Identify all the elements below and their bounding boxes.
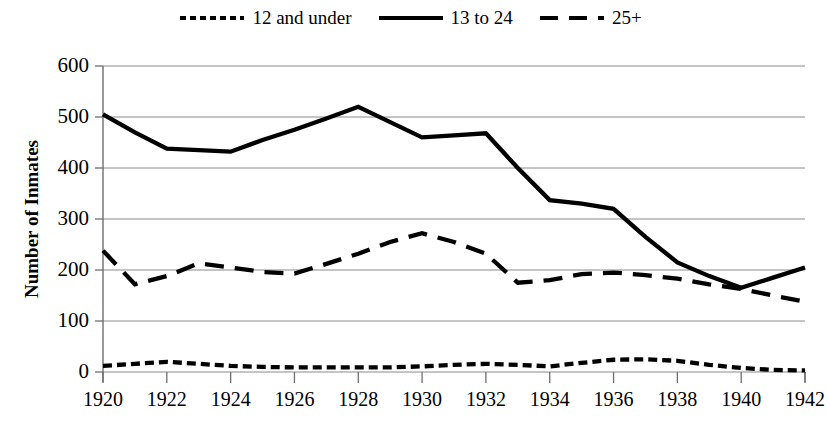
x-tick-label: 1930 [393,389,451,409]
series-line-13-to-24 [103,107,805,288]
x-tick-marks [103,372,805,383]
x-tick-label: 1934 [521,389,579,409]
x-tick-label: 1932 [457,389,515,409]
y-tick-label: 0 [33,361,89,382]
x-tick-label: 1936 [585,389,643,409]
x-tick-label: 1922 [138,389,196,409]
x-tick-label: 1926 [265,389,323,409]
axis-lines [95,66,805,382]
x-tick-label: 1942 [776,389,829,409]
gridlines [103,66,805,372]
series-line-12-and-under [103,359,805,370]
y-tick-label: 600 [33,55,89,76]
data-series-layer [103,107,805,371]
x-tick-label: 1938 [648,389,706,409]
x-tick-label: 1920 [74,389,132,409]
x-tick-label: 1924 [202,389,260,409]
x-tick-label: 1928 [329,389,387,409]
x-tick-label: 1940 [712,389,770,409]
y-axis-title: Number of Inmates [21,124,43,314]
series-line-25 [103,233,805,301]
